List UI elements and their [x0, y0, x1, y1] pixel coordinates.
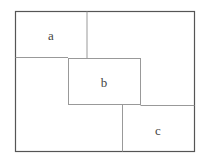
region-label-a: a — [48, 29, 54, 42]
region-diagram: a b c — [0, 0, 208, 159]
region-label-c: c — [155, 124, 161, 137]
region-label-b: b — [101, 76, 108, 89]
